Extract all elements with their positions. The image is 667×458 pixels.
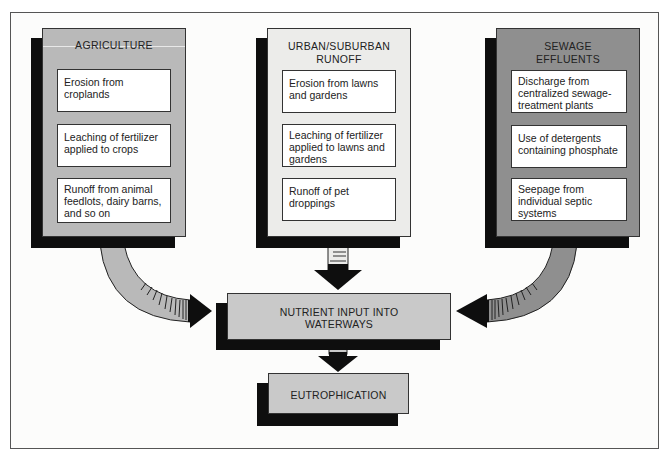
- agriculture-title: AGRICULTURE: [43, 39, 185, 51]
- urban-title-line2: RUNOFF: [268, 53, 410, 65]
- agriculture-item-erosion: Erosion from croplands: [57, 69, 171, 112]
- curved-arrow-left: [100, 244, 212, 328]
- sewage-title-line2: EFFLUENTS: [497, 53, 639, 65]
- agriculture-item-leaching: Leaching of fertilizer applied to crops: [57, 124, 171, 167]
- sewage-item-discharge: Discharge from centralized sewage-treatm…: [511, 70, 627, 113]
- sewage-panel: SEWAGE EFFLUENTS Discharge from centrali…: [496, 28, 640, 237]
- sewage-title-line1: SEWAGE: [497, 40, 639, 52]
- urban-item-pet-droppings: Runoff of pet droppings: [282, 178, 396, 221]
- eutrophication-box: EUTROPHICATION: [268, 373, 409, 414]
- sewage-item-detergents: Use of detergents containing phosphate: [511, 125, 627, 168]
- agriculture-item-runoff: Runoff from animal feedlots, dairy barns…: [57, 178, 171, 223]
- urban-item-leaching: Leaching of fertilizer applied to lawns …: [282, 124, 396, 167]
- curved-arrow-right: [456, 244, 577, 328]
- urban-item-erosion: Erosion from lawns and gardens: [282, 70, 396, 113]
- sewage-item-septic: Seepage from individual septic systems: [511, 178, 627, 221]
- urban-panel: URBAN/SUBURBAN RUNOFF Erosion from lawns…: [267, 28, 411, 237]
- agriculture-panel: AGRICULTURE Erosion from croplands Leach…: [42, 28, 186, 237]
- nutrient-label-line2: WATERWAYS: [228, 318, 450, 330]
- eutrophication-label: EUTROPHICATION: [269, 389, 408, 401]
- down-arrow-center: [314, 244, 362, 290]
- nutrient-input-box: NUTRIENT INPUT INTO WATERWAYS: [227, 293, 451, 340]
- urban-title-line1: URBAN/SUBURBAN: [268, 40, 410, 52]
- nutrient-label-line1: NUTRIENT INPUT INTO: [228, 306, 450, 318]
